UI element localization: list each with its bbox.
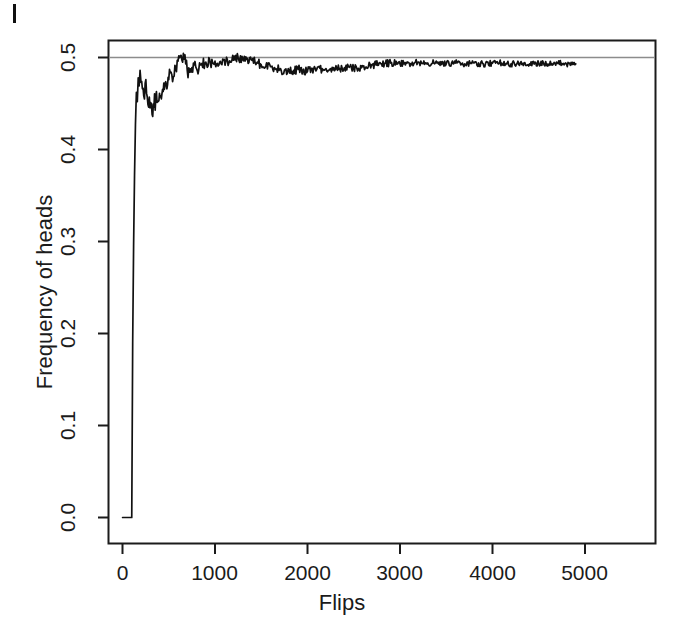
x-tick-label-5000: 5000: [544, 562, 625, 583]
x-tick-label-4000: 4000: [452, 562, 533, 583]
y-tick-label-0.5: 0.5: [57, 34, 78, 82]
y-axis-ticks: [98, 58, 108, 518]
y-tick-label-0.2: 0.2: [57, 310, 78, 358]
y-tick-label-0.1: 0.1: [57, 402, 78, 450]
plot-frame: [109, 41, 656, 544]
coin-flip-frequency-figure: 0.5 0.4 0.3 0.2 0.1 0.0 0 1000 2000 3000…: [0, 0, 688, 628]
x-axis-title: Flips: [302, 592, 382, 614]
x-tick-label-0: 0: [82, 562, 163, 583]
plot-canvas: [0, 0, 688, 628]
y-tick-label-0.0: 0.0: [57, 494, 78, 542]
x-tick-label-3000: 3000: [359, 562, 440, 583]
y-axis-title: Frequency of heads: [34, 162, 56, 422]
y-tick-label-0.3: 0.3: [57, 218, 78, 266]
x-axis-ticks: [123, 543, 586, 554]
x-tick-label-1000: 1000: [174, 562, 255, 583]
x-tick-label-2000: 2000: [267, 562, 348, 583]
y-tick-label-0.4: 0.4: [57, 126, 78, 174]
